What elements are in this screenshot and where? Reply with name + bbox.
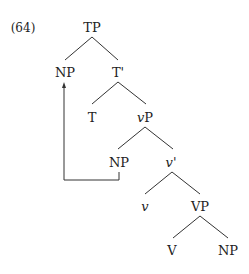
node-little-v: v	[141, 200, 148, 214]
node-v: V	[167, 244, 176, 258]
node-v-bar: v'	[166, 156, 177, 170]
node-little-vp: vP	[137, 111, 153, 125]
node-vp: VP	[191, 200, 209, 214]
arrowhead-icon	[62, 82, 66, 88]
node-tp: TP	[83, 21, 100, 35]
tree-branches	[0, 0, 249, 274]
node-t: T	[88, 111, 97, 125]
node-np-object: NP	[218, 244, 238, 258]
node-t-bar: T'	[112, 66, 124, 80]
example-number: (64)	[11, 21, 36, 35]
node-np-spec-tp: NP	[55, 66, 75, 80]
syntax-tree-diagram: (64) TP NP T' T vP NP v' v VP V NP	[0, 0, 249, 274]
node-np-spec-vp: NP	[109, 156, 129, 170]
